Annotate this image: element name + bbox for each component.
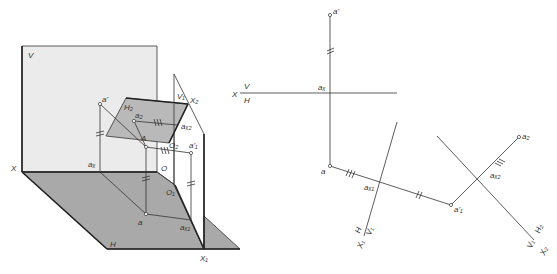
epure-label-H2: H₂ (533, 223, 544, 234)
point-a (144, 212, 147, 215)
label-H2: H₂ (124, 103, 133, 112)
epure-label-a: a (321, 167, 326, 176)
label-a-prime: a' (102, 95, 108, 104)
epure-point-a (328, 164, 331, 167)
label-a1-prime: a'₁ (189, 141, 198, 150)
epure-label-ax2: aₓ₂ (490, 171, 501, 180)
label-ax1: aₓ₁ (180, 223, 190, 232)
label-X: X (10, 164, 17, 173)
epure-label-V1-axis1: V₁ (364, 226, 375, 237)
pictorial-view: V H X O O₁ O₂ X₁ X₂ V₁ H₂ A a' a a₂ aₓ a… (10, 46, 240, 263)
label-ax2: aₓ₂ (181, 122, 192, 131)
epure-label-V: V (244, 82, 250, 91)
x1-axis (364, 122, 397, 236)
label-a2: a₂ (135, 111, 143, 120)
epure-point-a-prime (328, 13, 331, 16)
h-plane-extension (204, 216, 240, 249)
label-X2: X₂ (189, 96, 198, 105)
label-A: A (140, 134, 146, 143)
point-A (144, 145, 147, 148)
epure-label-a1-prime: a'₁ (454, 205, 463, 214)
epure-label-V1-axis2: V₁ (525, 239, 536, 250)
label-a: a (138, 218, 143, 227)
x2-axis (437, 136, 534, 240)
label-V1: V₁ (177, 92, 185, 101)
label-ax: aₓ (88, 160, 96, 169)
epure-label-H-axis1: H (353, 226, 364, 235)
epure-label-X2: X₂ (538, 246, 550, 258)
epure-label-H: H (244, 96, 250, 105)
epure-label-ax1: aₓ₁ (364, 183, 374, 192)
label-O2: O₂ (169, 141, 178, 150)
epure-label-a2: a₂ (522, 132, 530, 141)
epure-point-a2 (517, 135, 520, 138)
epure-label-ax: aₓ (318, 83, 326, 92)
label-X1: X₁ (199, 254, 208, 263)
label-V: V (28, 51, 34, 60)
label-O: O (161, 164, 167, 173)
label-H: H (110, 240, 116, 249)
epure-label-X1: X₁ (355, 239, 367, 251)
epure-label-a-prime: a' (333, 7, 339, 16)
projection-diagram: V H X O O₁ O₂ X₁ X₂ V₁ H₂ A a' a a₂ aₓ a… (0, 0, 557, 274)
label-O1: O₁ (166, 188, 175, 197)
point-a1-prime (189, 151, 192, 154)
epure-label-X: X (231, 90, 238, 99)
orthographic-epure: X V H a' aₓ a aₓ₁ a'₁ aₓ₂ a₂ H V₁ X₁ H₂ … (231, 7, 550, 257)
epure-point-a1-prime (449, 203, 452, 206)
